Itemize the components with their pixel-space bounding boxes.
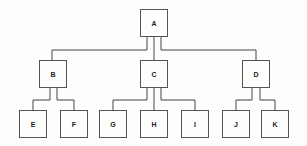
tree-diagram: A B C D E F G H I J K [0, 0, 307, 146]
node-j: J [222, 110, 250, 138]
node-i: I [181, 110, 209, 138]
node-c: C [140, 60, 168, 88]
node-k: K [261, 110, 289, 138]
node-h: H [140, 110, 168, 138]
node-g: G [99, 110, 127, 138]
node-f: F [60, 110, 88, 138]
node-d: D [242, 60, 270, 88]
node-e: E [19, 110, 47, 138]
node-b: B [39, 60, 67, 88]
node-a: A [140, 9, 168, 37]
